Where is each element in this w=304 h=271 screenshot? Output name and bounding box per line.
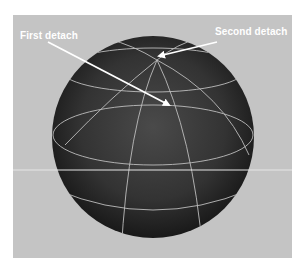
first-detach-label: First detach — [20, 30, 78, 41]
sphere[interactable] — [52, 36, 254, 238]
second-detach-label: Second detach — [215, 26, 287, 37]
3d-viewport[interactable]: First detach Second detach — [13, 15, 292, 258]
viewport-canvas[interactable] — [13, 15, 292, 258]
